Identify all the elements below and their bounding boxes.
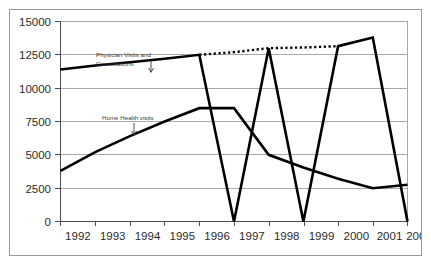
chart-frame: 15000 12500 10000 7500 5000 2500 0 1992 …: [9, 9, 422, 256]
x-tick-label: 1994: [135, 230, 161, 242]
x-tick-label: 2001: [377, 230, 403, 242]
x-tick-label: 1993: [100, 230, 126, 242]
x-axis-labels: 1992 1993 1994 1995 1996 1997 1998 1999 …: [65, 230, 421, 242]
y-tick-label: 2500: [25, 183, 51, 195]
x-tick-label: 1998: [274, 230, 300, 242]
x-tick-label: 1995: [170, 230, 196, 242]
y-tick-label: 0: [45, 216, 51, 228]
y-axis-labels: 15000 12500 10000 7500 5000 2500 0: [19, 16, 51, 228]
x-tick-label: 1992: [65, 230, 91, 242]
x-tick-label: 2000: [344, 230, 370, 242]
y-tick-label: 12500: [19, 49, 51, 61]
physician-annotation-line1: Physician Visits and: [96, 51, 151, 58]
y-tick-label: 15000: [19, 16, 51, 28]
physician-annotation-line2: Consultations: [96, 60, 134, 67]
y-tick-label: 10000: [19, 83, 51, 95]
x-tick-label: 2002: [406, 230, 421, 242]
x-tick-label: 1996: [204, 230, 230, 242]
x-tick-label: 1999: [309, 230, 335, 242]
y-tick-label: 5000: [25, 149, 51, 161]
home-health-annotation-line1: Home Health visits: [102, 114, 154, 121]
x-tick-label: 1997: [239, 230, 265, 242]
y-tickmarks: [55, 22, 60, 222]
y-tick-label: 7500: [25, 116, 51, 128]
line-chart: 15000 12500 10000 7500 5000 2500 0 1992 …: [10, 10, 421, 255]
